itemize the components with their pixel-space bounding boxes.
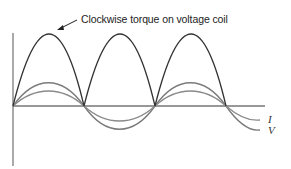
waveform-diagram (0, 0, 291, 169)
torque-curve (13, 34, 226, 106)
torque-annotation: Clockwise torque on voltage coil (81, 13, 228, 25)
voltage-label: V (268, 124, 275, 136)
arrowhead-icon (57, 25, 64, 30)
annotation-arrow-line (61, 20, 77, 28)
